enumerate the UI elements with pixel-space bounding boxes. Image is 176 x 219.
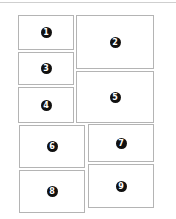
panel-4: 4 — [18, 87, 74, 123]
top-divider — [0, 2, 176, 3]
number-badge: 3 — [41, 63, 52, 74]
panel-5: 5 — [76, 71, 154, 123]
number-badge: 5 — [110, 92, 121, 103]
number-badge: 9 — [116, 181, 127, 192]
number-badge: 4 — [41, 100, 52, 111]
panel-8: 8 — [19, 170, 85, 213]
number-badge: 2 — [110, 37, 121, 48]
panel-3: 3 — [18, 52, 74, 85]
panel-9: 9 — [88, 164, 154, 208]
panel-6: 6 — [19, 125, 85, 168]
number-badge: 6 — [47, 141, 58, 152]
panel-7: 7 — [88, 124, 154, 162]
number-badge: 7 — [116, 138, 127, 149]
panel-1: 1 — [18, 15, 74, 50]
panel-2: 2 — [76, 15, 154, 69]
number-badge: 1 — [41, 27, 52, 38]
number-badge: 8 — [47, 186, 58, 197]
